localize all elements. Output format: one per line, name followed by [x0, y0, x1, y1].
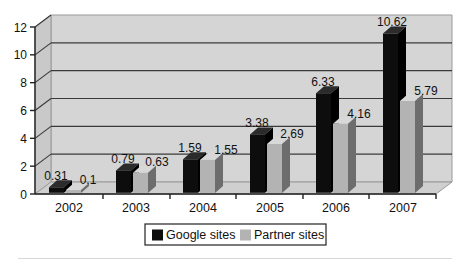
bar-partner-2003[interactable]: [133, 166, 156, 193]
category-label-2005: 2005: [256, 201, 284, 215]
chart-legend: Google sites Partner sites: [145, 224, 326, 245]
legend-label-partner-sites: Partner sites: [254, 228, 324, 242]
value-label-google-2006: 6.33: [311, 75, 335, 89]
y-tick-label: 4: [20, 132, 27, 146]
bar-partner-2004[interactable]: [200, 153, 223, 193]
category-label-2003: 2003: [122, 201, 150, 215]
x-axis-category-labels: 2002 2003 2004 2005 2006 2007: [55, 201, 417, 215]
y-tick-label: 8: [20, 76, 27, 90]
value-label-partner-2006: 4.16: [347, 107, 371, 121]
category-label-2007: 2007: [389, 201, 417, 215]
y-axis-tick-labels: 12 10 8 6 4 2 0: [14, 21, 28, 202]
legend-swatch-partner-sites: [240, 230, 251, 241]
legend-swatch-google-sites: [152, 230, 163, 241]
y-tick-label: 10: [14, 48, 28, 62]
value-label-google-2007: 10.62: [377, 15, 407, 29]
bar-partner-2005[interactable]: [267, 137, 290, 193]
y-tick-label: 6: [20, 104, 27, 118]
value-label-google-2004: 1.59: [178, 141, 202, 155]
value-label-google-2003: 0.79: [111, 152, 135, 166]
x-axis: [35, 194, 436, 199]
value-label-google-2005: 3.38: [245, 116, 269, 130]
value-label-google-2002: 0.31: [44, 169, 68, 183]
bar-partner-2006[interactable]: [333, 117, 356, 193]
chart-container: 12 10 8 6 4 2 0: [0, 0, 470, 264]
bar-partner-2007[interactable]: [400, 94, 423, 193]
y-tick-label: 12: [14, 21, 28, 35]
value-label-partner-2005: 2.69: [280, 127, 304, 141]
y-tick-label: 0: [20, 188, 27, 202]
bottom-divider: [18, 258, 452, 259]
category-label-2006: 2006: [322, 201, 350, 215]
value-label-partner-2002: 0.1: [80, 173, 97, 187]
category-label-2004: 2004: [189, 201, 217, 215]
value-label-partner-2004: 1.55: [214, 143, 238, 157]
bar-chart-3d: 12 10 8 6 4 2 0: [0, 0, 470, 264]
y-axis: [30, 27, 35, 194]
legend-label-google-sites: Google sites: [166, 228, 235, 242]
value-label-partner-2007: 5.79: [414, 84, 438, 98]
value-label-partner-2003: 0.63: [145, 155, 169, 169]
category-label-2002: 2002: [55, 201, 83, 215]
y-tick-label: 2: [20, 160, 27, 174]
